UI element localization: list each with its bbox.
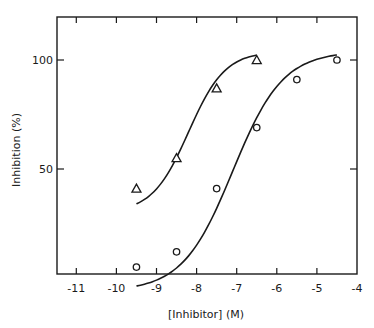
triangle-point <box>252 56 261 64</box>
x-tick-label: -10 <box>107 282 125 295</box>
fit-curve-triangles <box>136 55 256 204</box>
triangle-point <box>172 154 181 162</box>
x-axis-label: [Inhibitor] (M) <box>168 308 244 321</box>
x-tick-label: -9 <box>151 282 162 295</box>
x-tick-label: -11 <box>67 282 85 295</box>
circle-point <box>213 185 219 191</box>
x-tick-label: -8 <box>191 282 202 295</box>
plot-border <box>57 17 357 274</box>
circle-point <box>254 124 260 130</box>
fit-curve-circles <box>136 55 337 286</box>
y-tick-label: 50 <box>39 163 53 176</box>
x-tick-label: -6 <box>271 282 282 295</box>
y-tick-label: 100 <box>32 54 53 67</box>
circle-point <box>294 76 300 82</box>
circle-point <box>173 249 179 255</box>
x-tick-label: -7 <box>231 282 242 295</box>
y-axis-ticks: 50100 <box>32 54 357 176</box>
x-tick-label: -4 <box>352 282 363 295</box>
triangle-point <box>132 184 141 192</box>
x-tick-label: -5 <box>311 282 322 295</box>
circle-point <box>334 57 340 63</box>
circle-point <box>133 264 139 270</box>
plot-frame <box>57 17 357 274</box>
y-axis-label: Inhibition (%) <box>10 113 23 187</box>
inhibition-chart: -11-10-9-8-7-6-5-4 50100 [Inhibitor] (M)… <box>0 0 374 328</box>
fit-curves <box>136 55 337 286</box>
